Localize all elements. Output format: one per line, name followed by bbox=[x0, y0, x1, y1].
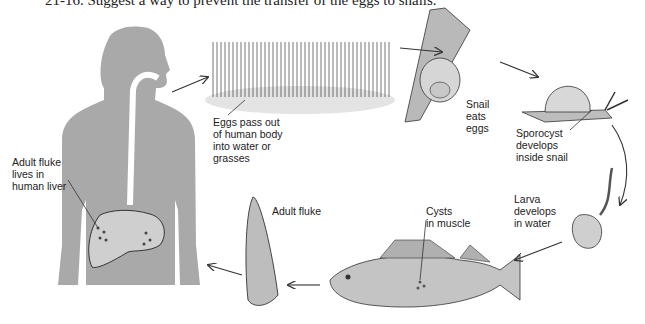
grasses-illustration bbox=[205, 42, 395, 115]
human-figure bbox=[58, 27, 200, 286]
label-adult-fluke: Adult fluke bbox=[272, 205, 321, 217]
label-cysts: Cysts in muscle bbox=[426, 205, 470, 229]
larva-illustration bbox=[572, 168, 612, 248]
label-larva: Larva develops in water bbox=[514, 193, 556, 229]
label-snail-eats: Snail eats eggs bbox=[466, 98, 489, 134]
label-eggs-pass: Eggs pass out of human body into water o… bbox=[213, 116, 282, 164]
label-sporocyst: Sporocyst develops inside snail bbox=[516, 127, 568, 163]
fish-illustration bbox=[330, 220, 520, 307]
snail-illustration bbox=[522, 86, 628, 130]
snail-on-grass-illustration bbox=[405, 8, 470, 122]
label-adult-fluke-liver: Adult fluke lives in human liver bbox=[12, 156, 66, 192]
